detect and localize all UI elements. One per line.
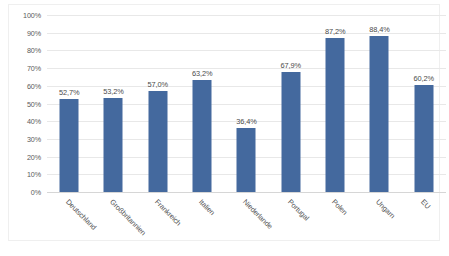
bar-value-label: 60,2%: [414, 74, 434, 83]
bar[interactable]: [414, 85, 433, 192]
bar[interactable]: [104, 98, 123, 192]
y-axis-tick-label: 60%: [27, 81, 41, 90]
bar[interactable]: [148, 91, 167, 192]
bar-group: 87,2%: [313, 15, 357, 192]
y-axis-tick-label: 40%: [27, 117, 41, 126]
bar-value-label: 57,0%: [148, 80, 168, 89]
y-axis-tick-label: 80%: [27, 46, 41, 55]
bar-group: 36,4%: [224, 15, 268, 192]
plot-area: 52,7%53,2%57,0%63,2%36,4%67,9%87,2%88,4%…: [47, 15, 446, 192]
bar[interactable]: [237, 128, 256, 192]
bar-value-label: 53,2%: [103, 87, 123, 96]
y-axis-tick-label: 30%: [27, 134, 41, 143]
bar-value-label: 36,4%: [236, 117, 256, 126]
bar-group: 67,9%: [269, 15, 313, 192]
y-axis-tick-label: 50%: [27, 99, 41, 108]
x-axis-category-slot: Portugal: [269, 194, 313, 242]
bar-value-label: 63,2%: [192, 69, 212, 78]
bar-group: 53,2%: [91, 15, 135, 192]
y-axis: 0%10%20%30%40%50%60%70%80%90%100%: [9, 15, 45, 192]
x-axis-category-slot: EU: [402, 194, 446, 242]
x-axis-category-label: Frankreich: [153, 197, 183, 227]
bar-value-label: 67,9%: [281, 61, 301, 70]
y-axis-tick-label: 90%: [27, 28, 41, 37]
bar[interactable]: [60, 99, 79, 192]
bar[interactable]: [193, 80, 212, 192]
x-axis-category-slot: Niederlande: [224, 194, 268, 242]
x-axis-category-slot: Großbritannien: [91, 194, 135, 242]
y-axis-tick-label: 20%: [27, 152, 41, 161]
x-axis-category-label: Ungarn: [375, 197, 398, 220]
y-axis-tick-label: 100%: [23, 11, 41, 20]
y-axis-tick-label: 10%: [27, 170, 41, 179]
bar-value-label: 87,2%: [325, 27, 345, 36]
bar-value-label: 52,7%: [59, 88, 79, 97]
bar-group: 63,2%: [180, 15, 224, 192]
x-axis-category-label: Italien: [197, 197, 217, 217]
x-axis-category-slot: Ungarn: [357, 194, 401, 242]
bar-value-label: 88,4%: [369, 25, 389, 34]
x-axis-category-label: Portugal: [286, 197, 311, 222]
bar-group: 52,7%: [47, 15, 91, 192]
y-axis-tick-label: 70%: [27, 64, 41, 73]
bar[interactable]: [370, 36, 389, 192]
y-axis-tick-label: 0%: [31, 188, 41, 197]
x-axis-category-label: EU: [419, 197, 432, 210]
x-axis-category-slot: Frankreich: [136, 194, 180, 242]
x-axis-category-label: Polen: [330, 197, 349, 216]
bar-group: 57,0%: [136, 15, 180, 192]
gridline: [47, 192, 446, 193]
x-axis-category-slot: Polen: [313, 194, 357, 242]
chart-container: 0%10%20%30%40%50%60%70%80%90%100% 52,7%5…: [8, 4, 440, 241]
bar[interactable]: [281, 72, 300, 192]
bar[interactable]: [326, 38, 345, 192]
bar-group: 88,4%: [357, 15, 401, 192]
x-axis: DeutschlandGroßbritannienFrankreichItali…: [47, 194, 446, 242]
x-axis-category-slot: Deutschland: [47, 194, 91, 242]
x-axis-category-slot: Italien: [180, 194, 224, 242]
bar-group: 60,2%: [402, 15, 446, 192]
